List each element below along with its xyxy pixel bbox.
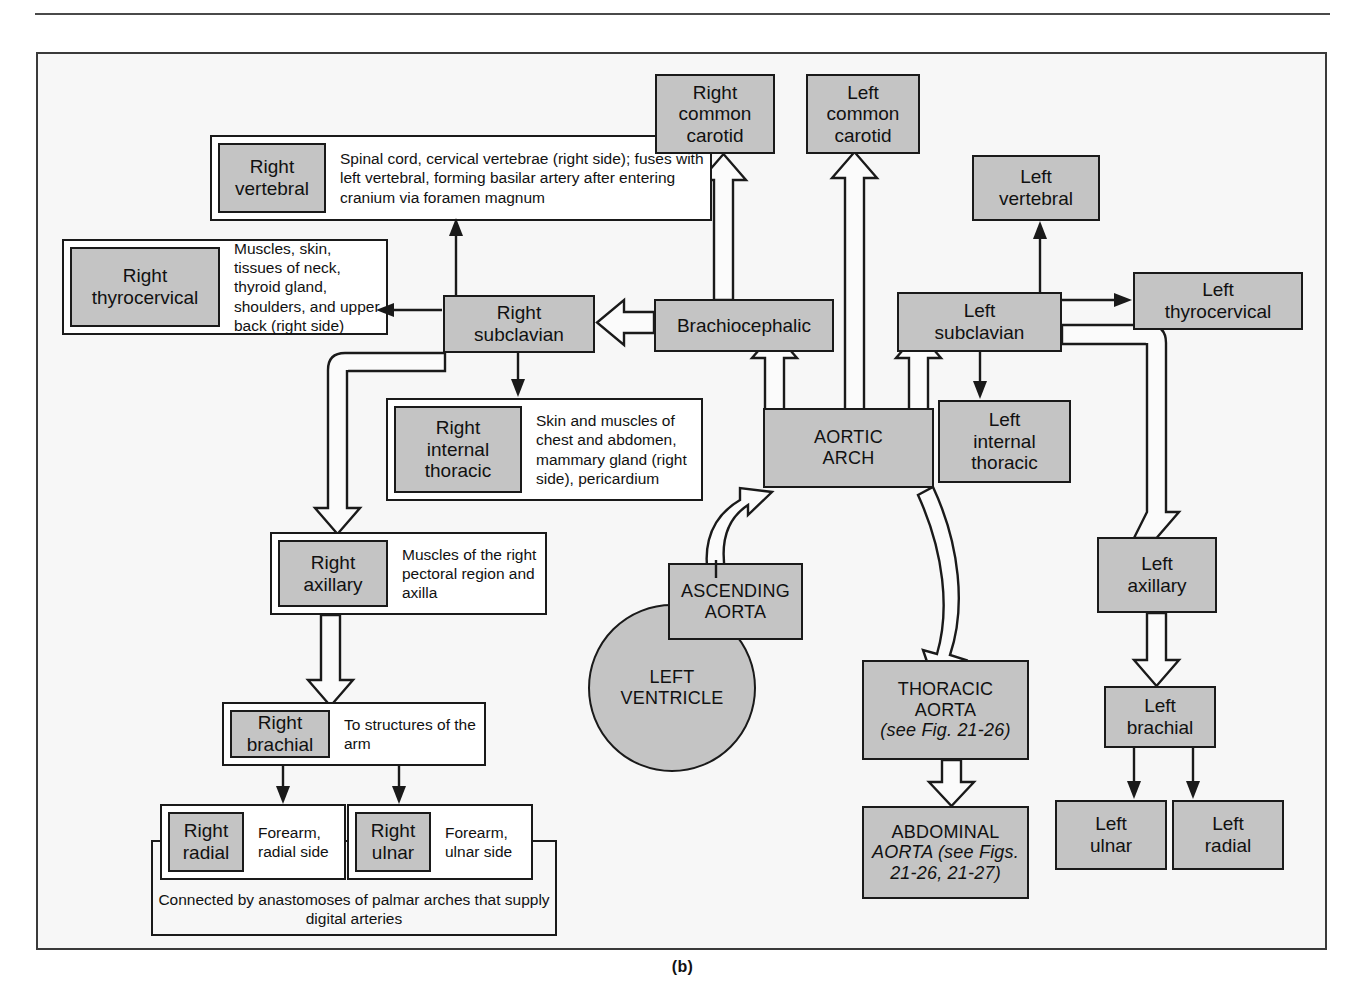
- node-ascending-aorta[interactable]: ASCENDINGAORTA: [668, 563, 803, 640]
- node-right-internal-thoracic-desc: Skin and muscles of chest and abdomen, m…: [528, 400, 701, 499]
- node-left-radial[interactable]: Leftradial: [1172, 800, 1284, 870]
- node-left-ulnar[interactable]: Leftulnar: [1055, 800, 1167, 870]
- node-left-vertebral[interactable]: Leftvertebral: [972, 155, 1100, 221]
- node-right-vertebral-desc: Spinal cord, cervical vertebrae (right s…: [332, 137, 710, 219]
- node-right-brachial-label: Rightbrachial: [230, 710, 330, 758]
- figure-stage: Rightvertebral Spinal cord, cervical ver…: [0, 0, 1365, 1006]
- node-thoracic-aorta-label: THORACICAORTA: [898, 679, 994, 720]
- figure-caption: (b): [0, 958, 1365, 976]
- top-divider-rule: [35, 13, 1330, 15]
- node-right-brachial[interactable]: Rightbrachial To structures of the arm: [222, 702, 486, 766]
- node-right-ulnar-desc: Forearm, ulnar side: [437, 806, 531, 878]
- node-right-axillary-desc: Muscles of the right pectoral region and…: [394, 534, 545, 613]
- node-right-ulnar[interactable]: Rightulnar Forearm, ulnar side: [347, 804, 533, 880]
- node-right-subclavian[interactable]: Rightsubclavian: [443, 295, 595, 353]
- node-right-common-carotid[interactable]: Rightcommoncarotid: [655, 74, 775, 154]
- node-right-radial-desc: Forearm, radial side: [250, 806, 344, 878]
- node-abdominal-aorta-label: ABDOMINAL: [892, 822, 1000, 843]
- node-left-subclavian[interactable]: Leftsubclavian: [897, 292, 1062, 352]
- node-left-brachial[interactable]: Leftbrachial: [1104, 686, 1216, 748]
- node-left-internal-thoracic[interactable]: Leftinternalthoracic: [938, 400, 1071, 483]
- anastomosis-note-text: Connected by anastomoses of palmar arche…: [153, 890, 555, 928]
- node-right-internal-thoracic-label: Rightinternalthoracic: [394, 406, 522, 493]
- node-right-thyrocervical[interactable]: Rightthyrocervical Muscles, skin, tissue…: [62, 239, 388, 335]
- node-right-axillary[interactable]: Rightaxillary Muscles of the right pecto…: [270, 532, 547, 615]
- node-right-vertebral-label: Rightvertebral: [218, 143, 326, 213]
- node-right-radial[interactable]: Rightradial Forearm, radial side: [160, 804, 346, 880]
- node-thoracic-aorta[interactable]: THORACICAORTA (see Fig. 21-26): [862, 660, 1029, 760]
- node-aortic-arch[interactable]: AORTICARCH: [763, 408, 934, 488]
- node-left-axillary[interactable]: Leftaxillary: [1097, 537, 1217, 613]
- node-brachiocephalic[interactable]: Brachiocephalic: [654, 299, 834, 352]
- node-thoracic-aorta-ref: (see Fig. 21-26): [880, 720, 1010, 741]
- node-right-thyrocervical-label: Rightthyrocervical: [70, 247, 220, 327]
- node-abdominal-aorta-ref2: 21-26, 21-27): [890, 863, 1001, 884]
- node-right-axillary-label: Rightaxillary: [278, 540, 388, 607]
- node-abdominal-aorta[interactable]: ABDOMINAL AORTA (see Figs. 21-26, 21-27): [862, 806, 1029, 899]
- node-right-vertebral[interactable]: Rightvertebral Spinal cord, cervical ver…: [210, 135, 712, 221]
- node-right-ulnar-label: Rightulnar: [355, 812, 431, 872]
- node-left-common-carotid[interactable]: Leftcommoncarotid: [806, 74, 920, 154]
- node-right-radial-label: Rightradial: [168, 812, 244, 872]
- node-right-internal-thoracic[interactable]: Rightinternalthoracic Skin and muscles o…: [386, 398, 703, 501]
- node-right-brachial-desc: To structures of the arm: [336, 704, 484, 764]
- node-abdominal-aorta-ref1: AORTA (see Figs.: [872, 842, 1019, 863]
- node-right-thyrocervical-desc: Muscles, skin, tissues of neck, thyroid …: [226, 241, 386, 333]
- node-left-thyrocervical[interactable]: Leftthyrocervical: [1133, 272, 1303, 330]
